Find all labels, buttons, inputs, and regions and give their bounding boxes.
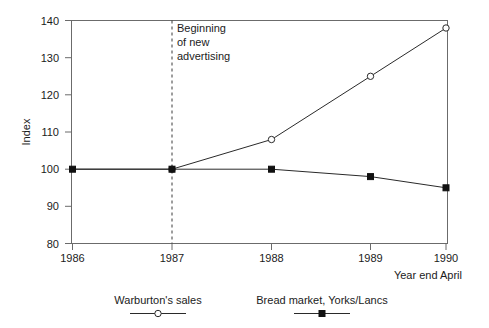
x-tick-label-1987: 1987 [160,252,184,264]
legend-marker-filled-square-icon [319,311,325,317]
legend-label-bread-market: Bread market, Yorks/Lancs [256,294,388,306]
y-tick-label-90: 90 [47,200,59,212]
chart-container: 140 130 120 110 100 90 80 Index 1986 198… [0,0,489,328]
plot-frame [72,21,448,244]
y-tick-label-140: 140 [41,15,59,27]
data-point-warburtons-1988 [268,136,274,142]
x-tick-label-1988: 1988 [259,252,283,264]
annotation-line-2: of new [177,36,209,48]
y-tick-label-130: 130 [41,52,59,64]
x-tick-label-1989: 1989 [358,252,382,264]
y-axis-title: Index [20,118,32,145]
data-point-bread-1987 [169,166,175,172]
data-point-bread-1990 [443,185,449,191]
data-point-bread-1986 [70,166,76,172]
legend-marker-open-circle-icon [155,310,161,316]
y-tick-label-110: 110 [41,126,59,138]
legend-label-warburtons: Warburton's sales [114,294,202,306]
y-tick-label-100: 100 [41,163,59,175]
line-chart: 140 130 120 110 100 90 80 Index 1986 198… [0,0,489,328]
data-point-bread-1989 [368,174,374,180]
series-bread-market-line [73,169,447,188]
annotation-line-1: Beginning [177,22,226,34]
annotation-line-3: advertising [177,50,230,62]
series-warburtons-line [73,28,447,169]
x-tick-label-1990: 1990 [434,252,458,264]
data-point-warburtons-1989 [367,73,373,79]
x-axis-ticks [73,244,447,251]
legend-item-bread-market: Bread market, Yorks/Lancs [256,294,388,317]
y-tick-label-80: 80 [47,238,59,250]
data-point-bread-1988 [269,166,275,172]
series-bread-market [70,166,450,191]
data-point-warburtons-1990 [443,25,449,31]
series-warburtons-sales [73,25,450,173]
y-tick-label-120: 120 [41,89,59,101]
legend-item-warburtons-sales: Warburton's sales [114,294,202,317]
y-axis-ticks [65,21,72,244]
x-tick-label-1986: 1986 [60,252,84,264]
x-axis-title: Year end April [394,269,462,281]
